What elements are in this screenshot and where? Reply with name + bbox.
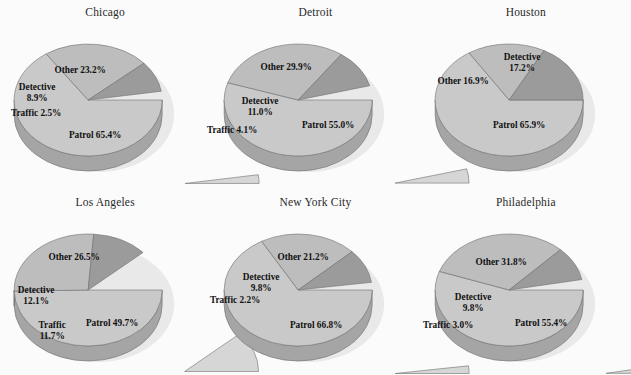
pie-philadelphia[interactable]: Patrol 55.4%Other 31.8%Detective9.8%Traf… bbox=[421, 206, 631, 374]
pie-svg: Patrol 65.4%Other 23.2%Detective8.9%Traf… bbox=[0, 16, 210, 184]
slice-label-other: Other 31.8% bbox=[475, 257, 526, 267]
pie-detroit[interactable]: Patrol 55.0%Other 29.9%Detective11.0%Tra… bbox=[210, 16, 420, 184]
slice-label-traffic: Traffic 3.0% bbox=[423, 320, 473, 330]
chart-cell-new-york-city: New York City Patrol 66.8%Other 21.2%Det… bbox=[210, 190, 420, 375]
slice-label-other: Other 29.9% bbox=[261, 62, 312, 72]
slice-label-patrol: Patrol 66.8% bbox=[290, 320, 343, 330]
slice-label-patrol: Patrol 49.7% bbox=[86, 318, 139, 328]
pie-los-angeles[interactable]: Patrol 49.7%Other 26.5%Detective12.1%Tra… bbox=[0, 206, 210, 374]
chart-cell-philadelphia: Philadelphia Patrol 55.4%Other 31.8%Dete… bbox=[421, 190, 631, 375]
slice-label-patrol: Patrol 55.4% bbox=[515, 318, 568, 328]
slice-label-other: Other 26.5% bbox=[48, 252, 99, 262]
slice-label-traffic: Traffic 4.1% bbox=[207, 125, 257, 135]
pie-slice-traffic[interactable] bbox=[606, 363, 631, 373]
pie-svg: Patrol 66.8%Other 21.2%Detective9.8%Traf… bbox=[210, 206, 420, 374]
slice-label-patrol: Patrol 65.4% bbox=[69, 130, 122, 140]
chart-cell-detroit: Detroit Patrol 55.0%Other 29.9%Detective… bbox=[210, 0, 420, 190]
pie-svg: Patrol 49.7%Other 26.5%Detective12.1%Tra… bbox=[0, 206, 210, 374]
slice-label-traffic: Traffic11.7% bbox=[39, 320, 66, 341]
pie-chicago[interactable]: Patrol 65.4%Other 23.2%Detective8.9%Traf… bbox=[0, 16, 210, 184]
pie-svg: Patrol 55.4%Other 31.8%Detective9.8%Traf… bbox=[421, 206, 631, 374]
pie-new-york-city[interactable]: Patrol 66.8%Other 21.2%Detective9.8%Traf… bbox=[210, 206, 420, 374]
chart-cell-houston: Houston Patrol 65.9%Other 16.9%Detective… bbox=[421, 0, 631, 190]
pie-houston[interactable]: Patrol 65.9%Other 16.9%Detective17.2% bbox=[421, 16, 631, 184]
pie-svg: Patrol 55.0%Other 29.9%Detective11.0%Tra… bbox=[210, 16, 420, 184]
pie-svg: Patrol 65.9%Other 16.9%Detective17.2% bbox=[421, 16, 631, 184]
chart-cell-los-angeles: Los Angeles Patrol 49.7%Other 26.5%Detec… bbox=[0, 190, 210, 375]
slice-label-traffic: Traffic 2.5% bbox=[11, 108, 61, 118]
pie-chart-grid: Chicago Patrol 65.4%Other 23.2%Detective… bbox=[0, 0, 631, 375]
slice-label-other: Other 23.2% bbox=[54, 65, 105, 75]
slice-label-other: Other 21.2% bbox=[278, 252, 329, 262]
slice-label-other: Other 16.9% bbox=[437, 76, 488, 86]
slice-label-patrol: Patrol 65.9% bbox=[493, 120, 546, 130]
slice-label-traffic: Traffic 2.2% bbox=[210, 295, 260, 305]
pie-slice-other[interactable] bbox=[14, 234, 94, 291]
chart-cell-chicago: Chicago Patrol 65.4%Other 23.2%Detective… bbox=[0, 0, 210, 190]
slice-label-patrol: Patrol 55.0% bbox=[302, 120, 355, 130]
